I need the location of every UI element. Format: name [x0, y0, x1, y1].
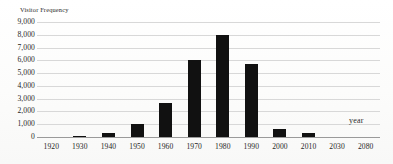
y-axis-tick-label: 4,000 — [2, 82, 35, 90]
bar-1940 — [102, 133, 115, 137]
y-axis-tick-label: 8,000 — [2, 31, 35, 39]
x-axis-line — [37, 137, 380, 138]
bar-1950 — [131, 124, 144, 137]
y-axis-tick-label: 2,000 — [2, 107, 35, 115]
bar-chart: Visitor Frequency 9,0008,0007,0006,0005,… — [0, 0, 393, 164]
y-axis-tick-label: 5,000 — [2, 69, 35, 77]
x-axis-tick-label: 2080 — [349, 142, 383, 151]
x-axis-title: year — [349, 116, 364, 125]
bar-1960 — [159, 103, 172, 138]
y-axis-title: Visitor Frequency — [20, 6, 69, 14]
gridline — [37, 35, 380, 36]
gridline — [37, 60, 380, 61]
y-axis-tick-label: 7,000 — [2, 44, 35, 52]
bar-1980 — [216, 35, 229, 137]
gridline — [37, 111, 380, 112]
x-axis-tick-labels: 1920193019401950196019701980199020002010… — [37, 142, 380, 156]
gridline — [37, 73, 380, 74]
bar-1930 — [73, 136, 86, 137]
gridline — [37, 99, 380, 100]
y-axis-tick-label: 0 — [2, 133, 35, 141]
gridline — [37, 124, 380, 125]
y-axis-tick-label: 1,000 — [2, 120, 35, 128]
y-axis-tick-label: 9,000 — [2, 18, 35, 26]
y-axis-tick-labels: 9,0008,0007,0006,0005,0004,0003,0002,000… — [0, 22, 35, 137]
gridline — [37, 48, 380, 49]
gridline — [37, 22, 380, 23]
y-axis-tick-label: 6,000 — [2, 56, 35, 64]
y-axis-tick-label: 3,000 — [2, 95, 35, 103]
gridline — [37, 86, 380, 87]
bar-2000 — [273, 129, 286, 137]
bar-1990 — [245, 64, 258, 137]
bar-2010 — [302, 133, 315, 137]
bar-1970 — [188, 60, 201, 137]
plot-area — [37, 22, 380, 137]
